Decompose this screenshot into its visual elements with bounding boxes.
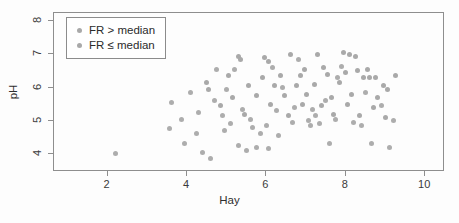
- data-point: [288, 52, 293, 57]
- data-point: [258, 131, 263, 136]
- data-point: [230, 95, 235, 100]
- x-axis-tick: [265, 171, 266, 176]
- data-point: [387, 145, 392, 150]
- data-point: [270, 65, 275, 70]
- data-point: [220, 113, 225, 118]
- data-point: [300, 102, 305, 107]
- data-point: [276, 133, 281, 138]
- data-point: [268, 102, 273, 107]
- data-point: [242, 112, 247, 117]
- data-point: [179, 117, 184, 122]
- data-point: [294, 83, 299, 88]
- y-axis-tick-label: 5: [31, 113, 43, 127]
- data-point: [113, 151, 118, 156]
- data-point: [224, 87, 229, 92]
- y-axis-tick-label: 6: [31, 80, 43, 94]
- data-point: [182, 141, 187, 146]
- legend: FR > median FR ≤ median: [66, 17, 166, 59]
- data-point: [212, 98, 217, 103]
- data-point: [331, 112, 336, 117]
- data-point: [298, 73, 303, 78]
- data-point: [353, 54, 358, 59]
- data-point: [206, 87, 211, 92]
- y-axis-tick-label: 7: [31, 46, 43, 60]
- data-point: [188, 90, 193, 95]
- data-point: [296, 57, 301, 62]
- data-point: [254, 145, 259, 150]
- x-axis-tick-label: 10: [418, 178, 430, 190]
- data-point: [266, 59, 271, 64]
- x-axis-tick-label: 8: [342, 178, 348, 190]
- data-point: [359, 123, 364, 128]
- data-point: [375, 95, 380, 100]
- data-point: [272, 83, 277, 88]
- data-point: [339, 64, 344, 69]
- data-point: [341, 50, 346, 55]
- x-axis-tick-label: 2: [104, 178, 110, 190]
- data-point: [321, 65, 326, 70]
- legend-marker-icon: [77, 43, 82, 48]
- data-point: [250, 125, 255, 130]
- y-axis-tick-label: 8: [31, 13, 43, 27]
- data-point: [214, 67, 219, 72]
- data-point: [327, 141, 332, 146]
- data-point: [228, 121, 233, 126]
- data-point: [361, 75, 366, 80]
- data-point: [347, 52, 352, 57]
- data-point: [282, 93, 287, 98]
- data-point: [222, 128, 227, 133]
- data-point: [290, 120, 295, 125]
- data-point: [343, 70, 348, 75]
- data-point: [308, 123, 313, 128]
- data-point: [264, 123, 269, 128]
- data-point: [325, 72, 330, 77]
- x-axis-tick: [424, 171, 425, 176]
- data-point: [371, 105, 376, 110]
- data-point: [260, 75, 265, 80]
- x-axis-tick-label: 6: [262, 178, 268, 190]
- data-point: [349, 92, 354, 97]
- data-point: [286, 113, 291, 118]
- data-point: [200, 150, 205, 155]
- data-point: [385, 87, 390, 92]
- data-point: [266, 146, 271, 151]
- data-point: [391, 118, 396, 123]
- data-point: [317, 121, 322, 126]
- data-point: [363, 90, 368, 95]
- data-point: [355, 68, 360, 73]
- data-point: [310, 107, 315, 112]
- x-axis-tick: [345, 171, 346, 176]
- y-axis-tick-label: 4: [31, 146, 43, 160]
- scatter-plot-figure: pH Hay 24681045678 FR > median FR ≤ medi…: [0, 0, 459, 223]
- x-axis-tick: [186, 171, 187, 176]
- data-point: [383, 115, 388, 120]
- data-point: [232, 67, 237, 72]
- data-point: [329, 95, 334, 100]
- data-point: [365, 67, 370, 72]
- data-point: [323, 98, 328, 103]
- data-point: [194, 131, 199, 136]
- data-point: [351, 120, 356, 125]
- data-point: [218, 103, 223, 108]
- data-point: [292, 105, 297, 110]
- data-point: [196, 110, 201, 115]
- data-point: [302, 67, 307, 72]
- legend-marker-icon: [77, 28, 82, 33]
- data-point: [280, 85, 285, 90]
- data-point: [357, 113, 362, 118]
- data-point: [167, 126, 172, 131]
- data-point: [315, 52, 320, 57]
- data-point: [312, 82, 317, 87]
- legend-item-label: FR > median: [89, 23, 155, 38]
- data-point: [208, 156, 213, 161]
- x-axis-tick: [107, 171, 108, 176]
- data-point: [369, 141, 374, 146]
- data-point: [367, 75, 372, 80]
- data-point: [240, 107, 245, 112]
- data-point: [244, 148, 249, 153]
- data-point: [304, 92, 309, 97]
- data-point: [169, 100, 174, 105]
- data-point: [226, 73, 231, 78]
- data-point: [393, 73, 398, 78]
- legend-item: FR ≤ median: [73, 38, 155, 53]
